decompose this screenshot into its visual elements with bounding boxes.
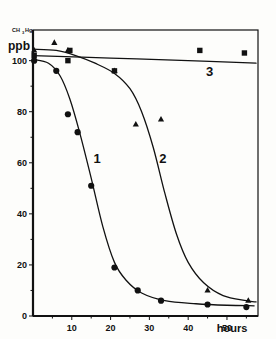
y-axis-species-label-main: CH <box>12 27 20 33</box>
plot-frame <box>33 30 258 316</box>
data-point-square-series-3 <box>242 50 247 55</box>
curve-2 <box>33 49 256 302</box>
labels-group: 123ppbCH3Hghours <box>8 27 247 334</box>
data-point-square-series-3 <box>65 58 70 63</box>
markers-group <box>31 39 251 310</box>
data-point-circle-series-1 <box>158 298 164 304</box>
data-point-triangle-series-2 <box>133 121 139 127</box>
y-axis-species-label-tail: Hg <box>25 27 32 33</box>
data-point-square-series-3 <box>112 68 117 73</box>
data-point-square-series-3 <box>67 48 72 53</box>
x-tick-label: 20 <box>106 323 116 333</box>
y-tick-label: 100 <box>12 56 27 66</box>
data-point-circle-series-1 <box>75 129 81 135</box>
data-point-square-series-3 <box>197 48 202 53</box>
figure-container: 0204060801001020304050 123ppbCH3Hghours <box>0 0 276 339</box>
data-point-circle-series-1 <box>53 68 59 74</box>
data-point-triangle-series-2 <box>51 39 57 45</box>
curve-number-label-3: 3 <box>206 64 213 79</box>
data-point-circle-series-1 <box>31 58 37 64</box>
x-tick-label: 10 <box>67 323 77 333</box>
data-point-circle-series-1 <box>204 301 210 307</box>
data-point-circle-series-1 <box>111 264 117 270</box>
data-point-circle-series-1 <box>88 183 94 189</box>
curves-group <box>33 49 256 306</box>
axes-group: 0204060801001020304050 <box>12 30 258 333</box>
y-tick-label: 80 <box>17 107 27 117</box>
x-axis-unit-label: hours <box>217 322 248 334</box>
curve-number-label-1: 1 <box>93 151 100 166</box>
x-tick-label: 40 <box>183 323 193 333</box>
curve-1 <box>33 59 254 305</box>
y-axis-unit-label: ppb <box>8 39 30 53</box>
x-tick-label: 30 <box>144 323 154 333</box>
y-tick-label: 40 <box>17 209 27 219</box>
data-point-square-series-3 <box>31 53 36 58</box>
chart-svg: 0204060801001020304050 123ppbCH3Hghours <box>0 0 276 339</box>
y-tick-label: 20 <box>17 260 27 270</box>
y-tick-label: 0 <box>22 311 27 321</box>
data-point-triangle-series-2 <box>158 116 164 122</box>
y-tick-label: 60 <box>17 158 27 168</box>
curve-number-label-2: 2 <box>159 151 166 166</box>
data-point-circle-series-1 <box>243 304 249 310</box>
data-point-circle-series-1 <box>135 287 141 293</box>
data-point-circle-series-1 <box>65 111 71 117</box>
